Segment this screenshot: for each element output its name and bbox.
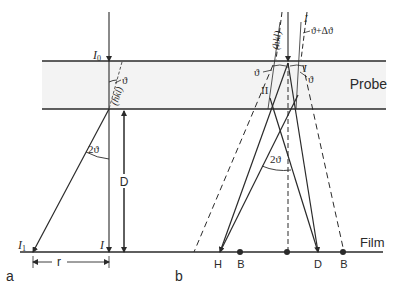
two-theta-label-b: 2ϑ <box>270 153 282 165</box>
plane-label-right-b: I <box>303 12 309 24</box>
panel-b: ϑ ϑ I (hkl) I ϑ+Δϑ II 2ϑ H B D B b <box>175 12 348 284</box>
panel-b-label: b <box>175 268 183 284</box>
hkl-label-b: (hkl) <box>270 30 284 51</box>
two-theta-label: 2ϑ <box>88 143 100 155</box>
panel-a-label: a <box>6 268 14 284</box>
film-marker-b-right: B <box>340 258 347 270</box>
film-marker-b-left: B <box>237 258 244 270</box>
theta-label-left: ϑ <box>254 66 260 78</box>
film-marker-d: D <box>314 258 322 270</box>
film-marker-h: H <box>214 258 222 270</box>
diffracted-intensity-label: I1 <box>17 238 26 253</box>
diffracted-beam <box>33 109 109 252</box>
film-dot-b-right <box>340 249 346 255</box>
theta-delta-label: ϑ+Δϑ <box>311 25 333 36</box>
crossing-ray-left <box>270 98 318 252</box>
transmitted-intensity-label: I <box>99 238 105 252</box>
crossing-ray-right <box>220 95 298 252</box>
probe-region <box>42 61 386 109</box>
diffraction-diagram: Probe Film I0 ϑ (hkl) 2ϑ D I1 I <box>0 0 393 295</box>
region-label: II <box>261 84 269 96</box>
theta-label: ϑ <box>122 74 128 86</box>
incident-intensity-label: I0 <box>92 48 101 63</box>
theta-label-right: ϑ <box>308 73 314 85</box>
probe-label: Probe <box>350 76 388 92</box>
film-dot-center <box>284 249 290 255</box>
film-dot-b-left <box>237 249 243 255</box>
two-theta-arc-b <box>262 166 291 171</box>
radius-label: r <box>57 255 61 269</box>
film-label: Film <box>360 235 385 250</box>
distance-label: D <box>120 175 129 189</box>
panel-a: I0 ϑ (hkl) 2ϑ D I1 I r a <box>6 12 130 284</box>
